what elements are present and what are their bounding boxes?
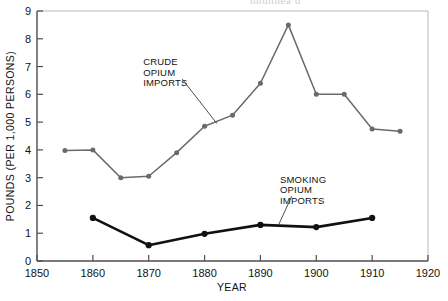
x-tick-label-1870: 1870 (136, 267, 160, 279)
series-smoking-opium-imports (90, 215, 375, 248)
chart-page: nnunnea u 0123456789 1850186018701880189… (0, 0, 448, 301)
smoking-annotation: SMOKINGOPIUMIMPORTS (278, 174, 326, 226)
data-point (146, 174, 151, 179)
x-tick-label-1850: 1850 (25, 267, 49, 279)
x-tick-label-1900: 1900 (304, 267, 328, 279)
smoking-annotation-line: OPIUM (280, 184, 312, 195)
data-point (313, 224, 319, 230)
x-axis-title: YEAR (217, 281, 247, 293)
series-line-crude-opium-imports (65, 25, 400, 178)
data-point (369, 215, 375, 221)
x-axis-ticks (37, 255, 428, 261)
annotation-layer: CRUDEOPIUMIMPORTSSMOKINGOPIUMIMPORTS (143, 56, 326, 225)
y-axis-tick-labels: 0123456789 (25, 5, 31, 267)
x-tick-label-1890: 1890 (248, 267, 272, 279)
smoking-annotation-line: SMOKING (280, 174, 326, 185)
data-point (258, 81, 263, 86)
data-point (230, 113, 235, 118)
y-tick-label-9: 9 (25, 5, 31, 17)
y-tick-label-0: 0 (25, 255, 31, 267)
x-tick-label-1920: 1920 (416, 267, 440, 279)
data-point (90, 215, 96, 221)
crude-annotation-line: CRUDE (143, 56, 178, 67)
data-series-layer (62, 22, 402, 248)
crude-annotation-line: IMPORTS (143, 77, 188, 88)
smoking-annotation-line: IMPORTS (280, 195, 325, 206)
y-tick-label-7: 7 (25, 61, 31, 73)
data-point (286, 22, 291, 27)
series-line-smoking-opium-imports (93, 218, 372, 245)
data-point (118, 175, 123, 180)
data-point (201, 231, 207, 237)
data-point (146, 242, 152, 248)
x-tick-label-1910: 1910 (360, 267, 384, 279)
data-point (398, 129, 403, 134)
crude-annotation: CRUDEOPIUMIMPORTS (143, 56, 217, 123)
series-crude-opium-imports (62, 22, 402, 180)
data-point (257, 222, 263, 228)
data-point (342, 92, 347, 97)
y-tick-label-4: 4 (25, 144, 31, 156)
data-point (174, 150, 179, 155)
opium-imports-line-chart: 0123456789 18501860187018801890190019101… (0, 0, 448, 301)
y-tick-label-2: 2 (25, 199, 31, 211)
y-tick-label-1: 1 (25, 227, 31, 239)
x-tick-label-1880: 1880 (192, 267, 216, 279)
data-point (202, 124, 207, 129)
data-point (314, 92, 319, 97)
crude-annotation-leader-line (182, 79, 217, 123)
x-axis-tick-labels: 18501860187018801890190019101920 (25, 267, 440, 279)
y-tick-label-3: 3 (25, 172, 31, 184)
data-point (370, 127, 375, 132)
y-tick-label-5: 5 (25, 116, 31, 128)
y-tick-label-6: 6 (25, 88, 31, 100)
data-point (90, 147, 95, 152)
x-tick-label-1860: 1860 (81, 267, 105, 279)
data-point (62, 148, 67, 153)
crude-annotation-line: OPIUM (143, 67, 175, 78)
y-axis-ticks (37, 11, 43, 261)
y-tick-label-8: 8 (25, 33, 31, 45)
y-axis-title: POUNDS (PER 1,000 PERSONS) (4, 51, 16, 221)
